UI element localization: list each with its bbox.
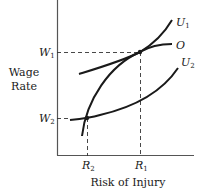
curve-u1	[82, 20, 172, 136]
curve-offer	[79, 44, 172, 74]
y-axis-title-line2: Rate	[4, 80, 44, 94]
y-axis-title: Wage Rate	[4, 66, 44, 95]
x-axis-title: Risk of Injury	[88, 176, 168, 190]
wage-risk-diagram: W1 W2 R2 R1 U1 O U2 Wage Rate Risk of In…	[0, 0, 202, 193]
tick-w2: W2	[39, 113, 55, 126]
point-w2-r2	[85, 116, 89, 120]
tick-r2: R2	[82, 160, 95, 173]
point-w1-r1	[138, 50, 142, 54]
label-u1: U1	[176, 17, 190, 30]
tick-r1: R1	[135, 160, 148, 173]
label-offer: O	[176, 40, 185, 51]
y-axis-title-line1: Wage	[4, 66, 44, 80]
tick-w1: W1	[39, 47, 55, 60]
diagram-canvas	[0, 0, 202, 193]
curve-u2	[70, 68, 178, 120]
label-u2: U2	[181, 57, 195, 70]
